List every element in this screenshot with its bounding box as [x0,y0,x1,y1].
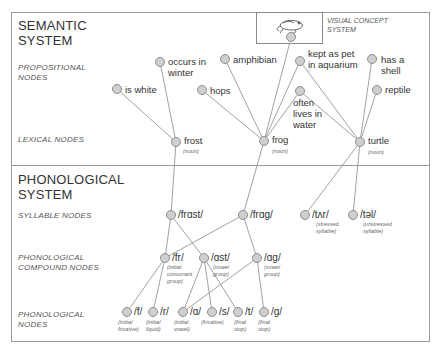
label-compound-ast: /ɑst/ [211,252,230,263]
node-syllable-frast [166,210,176,220]
node-turtle [355,137,365,147]
label-line: shell [381,65,404,76]
sub-line: (initial [118,319,139,326]
label-syllable-frag: /frɑg/ [250,209,273,220]
node-syllable-tar [300,210,310,220]
label-kept-as-pet: kept as pet in aquarium [308,48,358,70]
label-line: PHONOLOGICAL [18,253,99,263]
label-line: often [293,97,322,108]
node-compound-ast [199,253,209,263]
label-has-a-shell: has a shell [381,54,404,76]
label-hops: hops [210,85,231,96]
sub-line: stop) [258,326,270,333]
label-line: VISUAL CONCEPT [327,16,388,25]
node-phoneme-f [122,307,132,317]
node-phoneme-a [178,307,188,317]
label-line: PHONOLOGICAL [18,310,84,320]
sub-line: stop) [234,326,246,333]
title-line: SEMANTIC [18,18,87,33]
label-turtle: turtle [368,135,389,146]
sub-phoneme-a: (initial vowel) [174,319,190,333]
sub-line: (initial [146,319,161,326]
label-phoneme-a: /ɑ/ [190,306,201,317]
label-line: lives in [293,108,322,119]
sub-phoneme-s: (fricative) [201,319,224,326]
sub-line: (vowel [213,264,229,271]
sub-line: group) [167,278,192,285]
title-line: SYSTEM [18,33,87,48]
level-label-syllable: SYLLABLE NODES [18,211,92,221]
sub-line: liquid) [146,326,161,333]
level-label-propositional: PROPOSITIONAL NODES [18,63,86,83]
sub-phoneme-r: (initial liquid) [146,319,161,333]
sub-line: (final [258,319,270,326]
label-line: SYSTEM [327,25,388,34]
label-line: occurs in [168,56,206,67]
label-occurs-in-winter: occurs in winter [168,56,206,78]
level-label-compound: PHONOLOGICAL COMPOUND NODES [18,253,99,273]
sub-line: (vowel [264,264,280,271]
label-line: water [293,119,322,130]
pos-frog: (noun) [272,148,288,155]
level-label-lexical: LEXICAL NODES [18,135,84,145]
sub-phoneme-t: (final stop) [234,319,246,333]
node-phoneme-g [259,307,269,317]
label-line: PROPOSITIONAL [18,63,86,73]
pos-turtle: (noun) [368,149,384,156]
label-line: in aquarium [308,59,358,70]
label-compound-ag: /ɑg/ [264,252,281,263]
label-line: winter [168,67,206,78]
label-line: COMPOUND NODES [18,263,99,273]
sub-line: (initial [174,319,190,326]
label-compound-fr: /fr/ [172,252,184,263]
sub-syllable-tal: (unstressed syllable) [363,221,392,235]
sub-line: (unstressed [363,221,392,228]
visual-concept-node [286,32,296,42]
label-frog: frog [272,134,288,145]
node-reptile [372,85,382,95]
title-line: PHONOLOGICAL [18,172,124,187]
sub-line: (final [234,319,246,326]
sub-line: (initial [167,264,192,271]
sub-line: group) [264,271,280,278]
label-syllable-tar: /tʌr/ [312,209,329,220]
sub-phoneme-f: (initial fricative) [118,319,139,333]
sub-line: vowel) [174,326,190,333]
node-has-a-shell [367,54,377,64]
node-often-lives-in-water [295,86,305,96]
node-syllable-tal [348,210,358,220]
semantic-system-title: SEMANTIC SYSTEM [18,18,87,48]
label-line: NODES [18,73,86,83]
sub-line: syllable) [316,228,339,235]
label-phoneme-f: /f/ [134,306,142,317]
node-phoneme-r [148,307,158,317]
label-amphibian: amphibian [233,54,277,65]
label-line: has a [381,54,404,65]
sub-phoneme-g: (final stop) [258,319,270,333]
node-compound-fr [160,253,170,263]
node-hops [197,85,207,95]
sub-compound-ag: (vowel group) [264,264,280,278]
label-phoneme-s: /s/ [219,306,230,317]
label-often-lives-in-water: often lives in water [293,97,322,130]
node-phoneme-s [207,307,217,317]
label-line: kept as pet [308,48,358,59]
sub-syllable-tar: (stressed syllable) [316,221,339,235]
node-frost [171,137,181,147]
node-amphibian [220,54,230,64]
label-syllable-frast: /frɑst/ [178,209,203,220]
label-reptile: reptile [385,84,411,95]
label-frost: frost [184,135,202,146]
node-kept-as-pet [295,56,305,66]
sub-line: syllable) [363,228,392,235]
node-is-white [112,84,122,94]
node-syllable-frag [238,210,248,220]
label-phoneme-r: /r/ [160,306,169,317]
phonological-system-title: PHONOLOGICAL SYSTEM [18,172,124,202]
label-phoneme-g: /g/ [271,306,282,317]
node-frog [259,136,269,146]
sub-line: (fricative) [201,319,224,326]
visual-concept-label: VISUAL CONCEPT SYSTEM [327,16,388,34]
node-phoneme-t [233,307,243,317]
label-syllable-tal: /təl/ [360,209,376,220]
